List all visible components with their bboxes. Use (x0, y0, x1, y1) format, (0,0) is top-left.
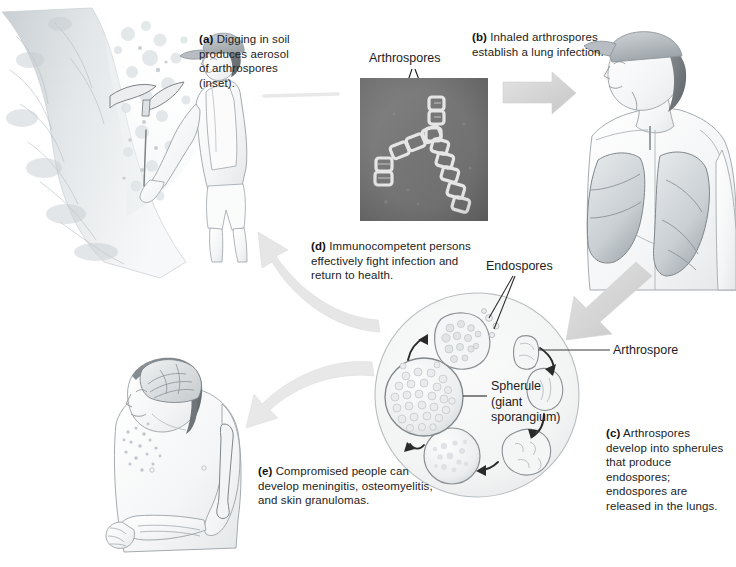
label-spherule-line1: Spherule (491, 379, 579, 395)
label-endospores: Endospores (486, 259, 553, 275)
caption-b: (b) Inhaled arthrospores establish a lun… (472, 30, 622, 59)
arrow-dig-to-inset (264, 94, 338, 96)
compromised-patient-illustration (106, 358, 241, 552)
label-spherule-line3: sporangium) (491, 410, 579, 426)
caption-a-tag: (a) (199, 33, 213, 45)
label-spherule: Spherule (giant sporangium) (491, 379, 579, 426)
skin-granuloma-dots (123, 423, 162, 472)
label-arthrospores-micrograph: Arthrospores (369, 51, 441, 67)
lifecycle-stage-mature-spherule (385, 358, 463, 436)
caption-e-tag: (e) (258, 465, 272, 477)
caption-a: (a) Digging in soil produces aerosol of … (199, 32, 299, 90)
arrow-inset-to-lungs (503, 72, 576, 114)
label-spherule-line2: (giant (491, 395, 579, 411)
caption-b-tag: (b) (472, 31, 487, 43)
caption-c-text: Arthrospores develop into spherules that… (606, 427, 723, 512)
arthrospore-micrograph-inset (360, 78, 488, 221)
caption-d-text: Immunocompetent persons effectively figh… (311, 240, 471, 281)
caption-c-tag: (c) (606, 427, 620, 439)
label-arthrospore: Arthrospore (613, 343, 678, 359)
caption-e-text: Compromised people can develop meningiti… (258, 465, 433, 506)
caption-c: (c) Arthrospores develop into spherules … (606, 426, 734, 513)
arrow-lifecycle-to-disease (246, 361, 374, 428)
caption-d: (d) Immunocompetent persons effectively … (311, 239, 481, 283)
caption-e: (e) Compromised people can develop menin… (258, 464, 448, 508)
leader-lines-endospores (489, 276, 515, 329)
figure-canvas: (a) Digging in soil produces aerosol of … (0, 0, 736, 567)
caption-d-tag: (d) (311, 240, 326, 252)
lifecycle-stage-early-spherule (502, 429, 550, 475)
escaping-endospores (482, 309, 499, 338)
lifecycle-stage-arthrospore (514, 336, 539, 370)
man-with-lungs-illustration (584, 32, 736, 290)
caption-a-text: Digging in soil produces aerosol of arth… (199, 33, 290, 89)
humerus-bone (217, 424, 233, 519)
arrow-lungs-to-lifecycle (566, 262, 652, 340)
lifecycle-stage-releasing-endospores (435, 309, 499, 370)
caption-b-text: Inhaled arthrospores establish a lung in… (472, 31, 604, 58)
